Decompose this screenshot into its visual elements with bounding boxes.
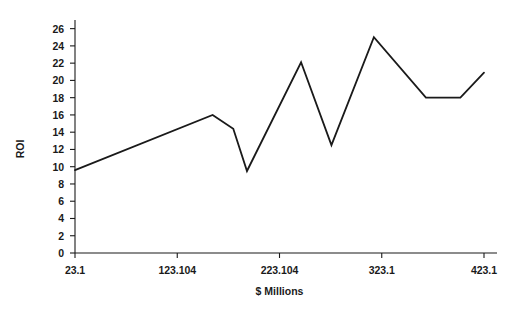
y-tick-label: 10 — [40, 161, 64, 173]
y-tick-label: 24 — [40, 40, 64, 52]
x-tick-label: 423.1 — [471, 264, 497, 276]
x-tick-marks — [75, 253, 484, 258]
roi-line-chart: 02468101214161820222426 23.1123.104223.1… — [0, 0, 510, 310]
y-tick-label: 8 — [40, 178, 64, 190]
y-tick-label: 4 — [40, 212, 64, 224]
y-axis-title: ROI — [14, 139, 26, 158]
y-tick-label: 20 — [40, 74, 64, 86]
y-tick-label: 26 — [40, 23, 64, 35]
x-axis-title: $ Millions — [256, 285, 304, 297]
y-tick-label: 0 — [40, 247, 64, 259]
roi-data-line — [75, 37, 484, 171]
x-tick-label: 23.1 — [65, 264, 85, 276]
y-tick-label: 14 — [40, 126, 64, 138]
axis-lines — [75, 20, 497, 253]
y-tick-label: 6 — [40, 195, 64, 207]
x-tick-label: 323.1 — [369, 264, 395, 276]
x-tick-label: 123.104 — [159, 264, 196, 276]
y-tick-marks — [70, 29, 75, 253]
y-tick-label: 18 — [40, 92, 64, 104]
y-tick-label: 16 — [40, 109, 64, 121]
y-tick-label: 12 — [40, 143, 64, 155]
y-tick-label: 2 — [40, 230, 64, 242]
y-tick-label: 22 — [40, 57, 64, 69]
x-tick-label: 223.104 — [261, 264, 298, 276]
